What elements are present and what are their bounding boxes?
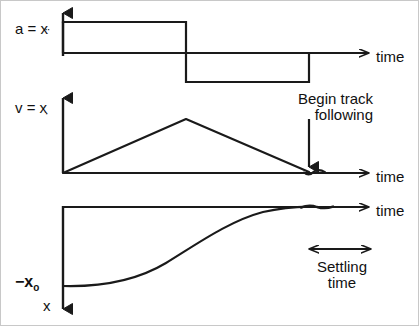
pos-waveform xyxy=(63,207,309,287)
position-axis-label: x xyxy=(43,298,51,314)
neg-x0-label: −xo xyxy=(15,274,39,294)
velocity-axis-label: v = x· xyxy=(15,100,47,116)
vel-waveform xyxy=(63,119,309,173)
settling-line1: Settling xyxy=(305,259,379,275)
acceleration-axis-label: a = x¨ xyxy=(15,21,48,37)
accel-waveform xyxy=(63,22,309,82)
settling-time-annotation: Settling time xyxy=(305,259,379,291)
accel-axis-text: a = x xyxy=(15,20,48,37)
profiles-diagram: a = x¨ v = x· time time time Begin track… xyxy=(0,0,419,326)
vel-axis-text: v = x xyxy=(15,99,47,116)
settling-line2: time xyxy=(305,275,379,291)
vel-time-axis-label: time xyxy=(376,169,404,185)
neg-x0-main: −x xyxy=(15,273,33,290)
accel-time-axis-label: time xyxy=(376,49,404,65)
pos-time-axis-label: time xyxy=(376,203,404,219)
neg-x0-subscript: o xyxy=(33,282,39,293)
begin-track-line2: following xyxy=(298,107,373,123)
begin-track-line1: Begin track xyxy=(298,91,373,107)
acceleration-panel xyxy=(63,13,369,82)
begin-track-following-annotation: Begin track following xyxy=(298,91,373,123)
